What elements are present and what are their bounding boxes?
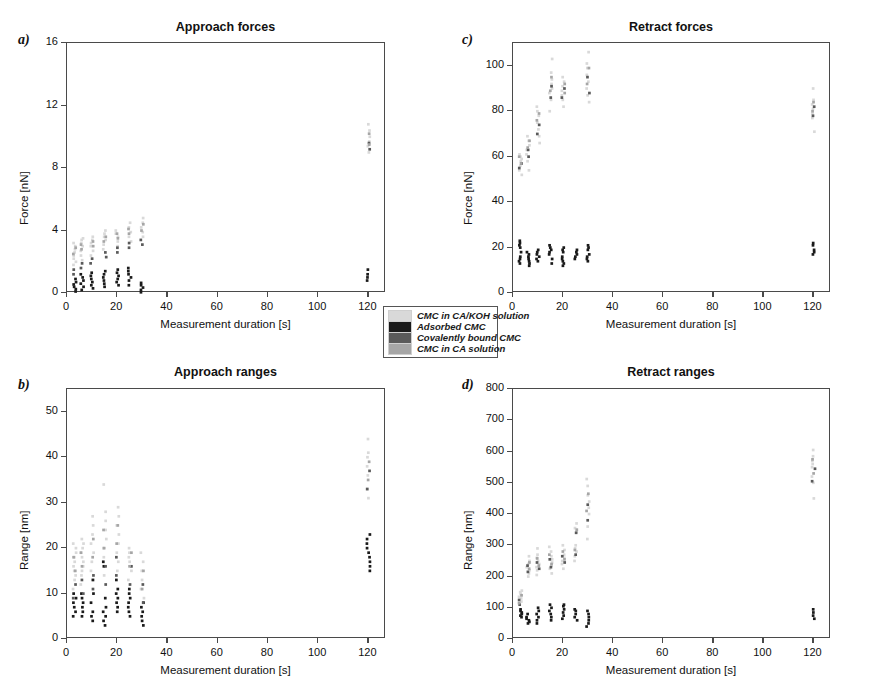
- x-tick-mark: [562, 638, 563, 643]
- series-d-0: [518, 449, 816, 603]
- y-tick-mark: [507, 247, 512, 248]
- series-d-1: [519, 603, 816, 628]
- y-tick-mark: [61, 167, 66, 168]
- legend-swatch-icon: [388, 343, 412, 355]
- x-tick-label: 60: [197, 646, 237, 658]
- x-tick-label: 80: [247, 646, 287, 658]
- series-a-1: [72, 267, 369, 294]
- x-tick-mark: [812, 292, 813, 297]
- panel-a-plot-area: [66, 42, 385, 292]
- panel-c-title: Retract forces: [512, 20, 830, 34]
- x-tick-mark: [762, 638, 763, 643]
- y-tick-label: 60: [464, 149, 504, 161]
- x-tick-mark: [612, 292, 613, 297]
- x-tick-label: 0: [46, 300, 86, 312]
- x-tick-mark: [166, 292, 167, 297]
- x-tick-mark: [512, 292, 513, 297]
- x-tick-label: 120: [792, 300, 832, 312]
- x-tick-label: 20: [96, 300, 136, 312]
- panel-b: b) Approach ranges 010203040500204060801…: [0, 350, 440, 691]
- legend-item-2: Covalently bound CMC: [388, 332, 492, 343]
- y-tick-mark: [61, 456, 66, 457]
- x-tick-mark: [712, 292, 713, 297]
- y-tick-mark: [61, 42, 66, 43]
- x-tick-label: 20: [542, 300, 582, 312]
- legend-item-label: CMC in CA/KOH solution: [417, 310, 529, 321]
- y-tick-mark: [61, 105, 66, 106]
- x-tick-mark: [267, 292, 268, 297]
- x-tick-mark: [66, 292, 67, 297]
- series-c-1: [518, 239, 816, 267]
- y-tick-mark: [61, 593, 66, 594]
- panel-c-datapoints: [513, 43, 831, 293]
- x-tick-mark: [512, 638, 513, 643]
- x-tick-label: 20: [96, 646, 136, 658]
- x-tick-label: 40: [592, 646, 632, 658]
- x-tick-mark: [317, 292, 318, 297]
- x-tick-label: 100: [742, 300, 782, 312]
- y-tick-mark: [61, 230, 66, 231]
- panel-a-title: Approach forces: [66, 20, 385, 34]
- legend-item-1: Adsorbed CMC: [388, 321, 492, 332]
- y-tick-mark: [507, 110, 512, 111]
- x-tick-label: 40: [146, 646, 186, 658]
- series-b-2: [72, 470, 371, 605]
- y-tick-label: 20: [464, 240, 504, 252]
- y-tick-label: 0: [464, 285, 504, 297]
- y-tick-label: 40: [18, 449, 58, 461]
- x-tick-label: 100: [297, 646, 337, 658]
- x-tick-mark: [217, 638, 218, 643]
- y-tick-mark: [507, 544, 512, 545]
- panel-c-x-axis-title: Measurement duration [s]: [512, 318, 830, 330]
- x-tick-label: 40: [592, 300, 632, 312]
- panel-b-y-axis-title: Range [nm]: [18, 511, 30, 570]
- y-tick-label: 0: [464, 631, 504, 643]
- x-tick-label: 120: [347, 646, 387, 658]
- panel-a-datapoints: [67, 43, 386, 293]
- x-tick-mark: [367, 292, 368, 297]
- y-tick-label: 8: [18, 160, 58, 172]
- y-tick-label: 12: [18, 98, 58, 110]
- x-tick-mark: [712, 638, 713, 643]
- x-tick-mark: [662, 292, 663, 297]
- series-c-3: [518, 67, 815, 165]
- series-d-2: [518, 467, 817, 606]
- series-a-2: [72, 142, 371, 276]
- y-tick-mark: [507, 513, 512, 514]
- y-tick-label: 600: [464, 444, 504, 456]
- x-tick-label: 40: [146, 300, 186, 312]
- x-tick-label: 100: [297, 300, 337, 312]
- x-tick-mark: [612, 638, 613, 643]
- x-tick-mark: [66, 638, 67, 643]
- series-b-1: [72, 533, 372, 627]
- x-tick-label: 120: [347, 300, 387, 312]
- legend-item-label: Adsorbed CMC: [417, 321, 486, 332]
- panel-a-x-axis-title: Measurement duration [s]: [66, 318, 385, 330]
- panel-d-title: Retract ranges: [512, 365, 830, 379]
- y-tick-mark: [61, 411, 66, 412]
- panel-a-y-axis-title: Force [nN]: [18, 171, 30, 225]
- x-tick-mark: [116, 292, 117, 297]
- y-tick-mark: [61, 502, 66, 503]
- y-tick-label: 50: [18, 404, 58, 416]
- x-tick-mark: [116, 638, 117, 643]
- x-tick-label: 60: [642, 300, 682, 312]
- y-tick-label: 16: [18, 35, 58, 47]
- y-tick-label: 80: [464, 103, 504, 115]
- panel-b-letter: b): [18, 377, 30, 393]
- y-tick-mark: [507, 201, 512, 202]
- x-tick-mark: [762, 292, 763, 297]
- legend-item-3: CMC in CA solution: [388, 343, 492, 354]
- y-tick-mark: [507, 482, 512, 483]
- y-tick-mark: [507, 419, 512, 420]
- x-tick-mark: [367, 638, 368, 643]
- y-tick-mark: [507, 576, 512, 577]
- x-tick-label: 0: [46, 646, 86, 658]
- panel-c-y-axis-title: Force [nN]: [462, 171, 474, 225]
- panel-d-plot-area: [512, 388, 830, 638]
- x-tick-mark: [812, 638, 813, 643]
- panel-d: d) Retract ranges 0100200300400500600700…: [440, 350, 869, 691]
- x-tick-mark: [166, 638, 167, 643]
- panel-b-datapoints: [67, 389, 386, 639]
- panel-d-x-axis-title: Measurement duration [s]: [512, 664, 830, 676]
